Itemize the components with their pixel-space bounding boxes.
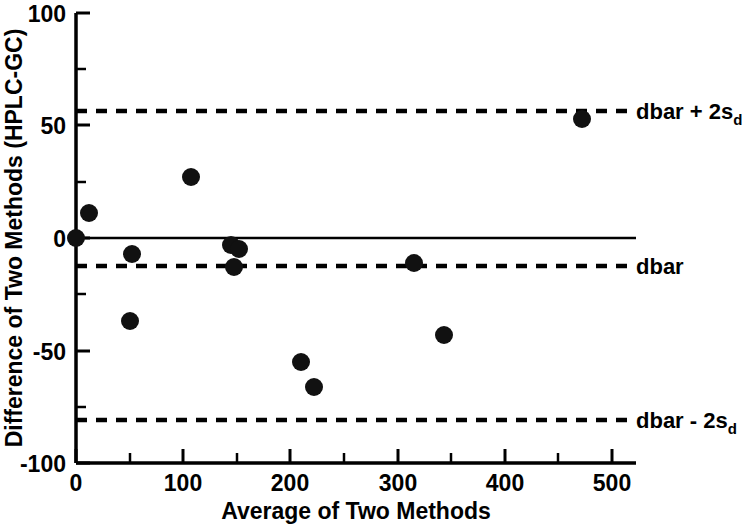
data-point (67, 229, 85, 247)
lower-limit-label: dbar - 2sd (636, 408, 737, 437)
x-axis-ticks (76, 449, 612, 463)
data-point (123, 245, 141, 263)
reference-line-labels: dbar + 2sd dbar dbar - 2sd (636, 99, 742, 437)
data-point (405, 254, 423, 272)
upper-limit-label-subscript: d (733, 111, 742, 128)
plot-canvas: 100 50 0 -50 -100 0 100 200 300 400 500 … (0, 0, 742, 526)
mean-difference-label-main: dbar (636, 254, 684, 279)
lower-limit-label-main: dbar - 2s (636, 408, 728, 433)
y-tick-label-0: 0 (53, 226, 66, 252)
reference-lines (76, 111, 636, 420)
bland-altman-plot-figure: 100 50 0 -50 -100 0 100 200 300 400 500 … (0, 0, 742, 526)
y-axis-title: Difference of Two Methods (HPLC-GC) (1, 29, 27, 448)
data-point (435, 326, 453, 344)
upper-limit-label-main: dbar + 2s (636, 99, 733, 124)
y-tick-label-50: 50 (40, 113, 66, 139)
y-tick-label-neg50: -50 (33, 339, 66, 365)
x-tick-label-200: 200 (271, 470, 309, 496)
lower-limit-label-subscript: d (728, 420, 737, 437)
data-point (305, 378, 323, 396)
data-points-group (67, 110, 591, 396)
data-point (230, 240, 248, 258)
upper-limit-label: dbar + 2sd (636, 99, 742, 128)
x-tick-label-400: 400 (486, 470, 524, 496)
data-point (292, 353, 310, 371)
x-tick-label-500: 500 (593, 470, 631, 496)
data-point (121, 312, 139, 330)
x-tick-label-300: 300 (379, 470, 417, 496)
data-point (182, 168, 200, 186)
y-tick-label-100: 100 (28, 1, 66, 27)
x-tick-label-100: 100 (164, 470, 202, 496)
data-point (80, 204, 98, 222)
data-point (225, 258, 243, 276)
x-tick-labels: 0 100 200 300 400 500 (70, 470, 632, 496)
y-tick-label-neg100: -100 (20, 451, 66, 477)
mean-difference-label: dbar (636, 254, 684, 279)
x-axis-title: Average of Two Methods (221, 498, 491, 524)
data-point (573, 110, 591, 128)
x-tick-label-0: 0 (70, 470, 83, 496)
